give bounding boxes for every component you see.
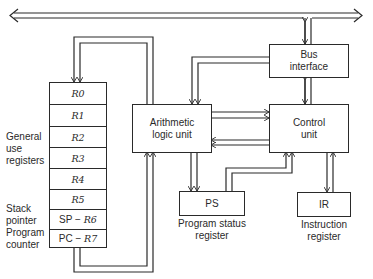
alu-to-control-unit <box>211 112 269 118</box>
register-file: R0 R1 R2 R3 R4 R5 SP − R6 PC − R7 <box>49 82 107 248</box>
system-bus <box>10 9 362 22</box>
register-r0: R0 <box>50 83 106 105</box>
control-unit-to-ir <box>327 152 333 192</box>
register-name: R3 <box>71 153 84 164</box>
bus-interface: Bus interface <box>269 44 349 78</box>
register-name: R7 <box>84 233 97 244</box>
stack-pointer-label: Stack pointer <box>6 203 37 227</box>
bus-interface-to-alu <box>192 57 269 104</box>
instruction-register-caption: Instruction register <box>290 219 358 243</box>
register-name: R5 <box>71 194 84 205</box>
arithmetic-logic-unit: Arithmetic logic unit <box>132 104 212 153</box>
general-use-registers-label: General use registers <box>6 131 44 167</box>
ps-to-control-unit <box>226 152 292 191</box>
register-r1: R1 <box>50 105 106 127</box>
register-r4: R4 <box>50 169 106 190</box>
register-name: R0 <box>71 88 84 99</box>
register-name: R2 <box>71 132 84 143</box>
register-pc-r7: PC − R7 <box>50 230 106 247</box>
bus-to-bus-interface <box>305 18 311 44</box>
register-name: R1 <box>71 110 84 121</box>
register-r5: R5 <box>50 190 106 210</box>
program-status-register: PS <box>179 191 245 216</box>
alu-to-ps <box>191 152 197 191</box>
control-unit: Control unit <box>269 104 349 153</box>
register-name: R4 <box>71 174 84 185</box>
control-unit-to-alu <box>211 140 269 145</box>
bus-interface-to-control-unit <box>305 77 311 104</box>
program-counter-label: Program counter <box>6 227 44 251</box>
instruction-register: IR <box>297 192 351 217</box>
register-name: R6 <box>84 214 97 225</box>
program-status-caption: Program status register <box>168 218 256 242</box>
register-sp-r6: SP − R6 <box>50 210 106 230</box>
register-r3: R3 <box>50 148 106 169</box>
register-r2: R2 <box>50 127 106 148</box>
